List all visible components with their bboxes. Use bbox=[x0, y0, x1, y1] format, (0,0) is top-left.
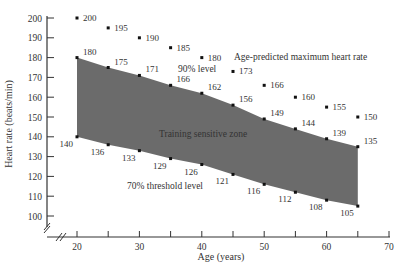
point-label: 133 bbox=[122, 153, 136, 163]
point-label: 116 bbox=[247, 186, 261, 196]
data-point bbox=[325, 199, 328, 202]
point-label: 180 bbox=[208, 53, 222, 63]
x-tick-label: 50 bbox=[259, 242, 269, 252]
y-tick-label: 110 bbox=[28, 192, 42, 202]
data-point bbox=[232, 173, 235, 176]
data-point bbox=[138, 36, 141, 39]
point-label: 185 bbox=[177, 43, 191, 53]
data-point bbox=[107, 66, 110, 69]
y-tick-label: 170 bbox=[28, 73, 43, 83]
point-label: 175 bbox=[114, 57, 128, 67]
data-point bbox=[169, 84, 172, 87]
data-point bbox=[263, 84, 266, 87]
data-point bbox=[200, 56, 203, 59]
point-label: 135 bbox=[364, 136, 378, 146]
data-point bbox=[325, 137, 328, 140]
heart-rate-chart: 1001101201301401501601701801902002030405… bbox=[0, 0, 412, 274]
data-point bbox=[138, 74, 141, 77]
point-label: 166 bbox=[270, 80, 284, 90]
y-tick-label: 150 bbox=[28, 113, 43, 123]
point-label: 162 bbox=[208, 82, 222, 92]
point-label: 112 bbox=[278, 194, 291, 204]
point-label: 105 bbox=[340, 208, 354, 218]
data-point bbox=[263, 117, 266, 120]
point-label: 155 bbox=[333, 102, 347, 112]
data-point bbox=[107, 143, 110, 146]
point-label: 160 bbox=[301, 92, 315, 102]
y-tick-label: 100 bbox=[28, 212, 43, 222]
point-label: 144 bbox=[301, 118, 315, 128]
point-label: 190 bbox=[145, 33, 159, 43]
point-label: 139 bbox=[333, 128, 347, 138]
y-tick-label: 140 bbox=[28, 132, 43, 142]
point-label: 140 bbox=[60, 139, 74, 149]
y-tick-label: 190 bbox=[28, 33, 43, 43]
point-label: 149 bbox=[270, 108, 284, 118]
data-point bbox=[232, 104, 235, 107]
point-label: 126 bbox=[184, 167, 198, 177]
data-point bbox=[356, 145, 359, 148]
point-label: 173 bbox=[239, 66, 253, 76]
data-point bbox=[169, 157, 172, 160]
data-point bbox=[325, 106, 328, 109]
point-label: 150 bbox=[364, 112, 378, 122]
y-tick-label: 120 bbox=[28, 172, 43, 182]
x-axis-label: Age (years) bbox=[198, 251, 245, 263]
x-tick-label: 20 bbox=[72, 242, 82, 252]
y-tick-label: 200 bbox=[28, 14, 43, 24]
data-point bbox=[232, 70, 235, 73]
point-label: 129 bbox=[153, 161, 167, 171]
point-label: 200 bbox=[83, 13, 97, 23]
data-point bbox=[107, 26, 110, 29]
x-tick-label: 70 bbox=[384, 242, 394, 252]
data-point bbox=[76, 17, 79, 20]
y-axis-label: Heart rate (beats/min) bbox=[3, 80, 15, 168]
data-point bbox=[169, 46, 172, 49]
data-point bbox=[356, 116, 359, 119]
max-hr-label: Age-predicted maximum heart rate bbox=[234, 52, 367, 62]
ninety-level-label: 90% level bbox=[178, 64, 217, 74]
y-tick-label: 180 bbox=[28, 53, 43, 63]
zone-label: Training sensitive zone bbox=[159, 129, 247, 139]
data-point bbox=[263, 183, 266, 186]
point-label: 180 bbox=[83, 47, 97, 57]
data-point bbox=[356, 205, 359, 208]
data-point bbox=[294, 191, 297, 194]
data-point bbox=[76, 135, 79, 138]
point-label: 136 bbox=[91, 147, 105, 157]
y-tick-label: 160 bbox=[28, 93, 43, 103]
data-point bbox=[138, 149, 141, 152]
point-label: 195 bbox=[114, 23, 128, 33]
data-point bbox=[76, 56, 79, 59]
point-label: 171 bbox=[145, 64, 159, 74]
point-label: 166 bbox=[177, 74, 191, 84]
data-point bbox=[294, 96, 297, 99]
point-label: 108 bbox=[309, 202, 323, 212]
point-label: 121 bbox=[216, 176, 230, 186]
data-point bbox=[200, 163, 203, 166]
data-point bbox=[294, 127, 297, 130]
y-tick-label: 130 bbox=[28, 152, 43, 162]
data-point bbox=[200, 92, 203, 95]
x-tick-label: 30 bbox=[135, 242, 145, 252]
point-label: 156 bbox=[239, 94, 253, 104]
x-tick-label: 60 bbox=[322, 242, 332, 252]
seventy-level-label: 70% threshold level bbox=[127, 181, 203, 191]
